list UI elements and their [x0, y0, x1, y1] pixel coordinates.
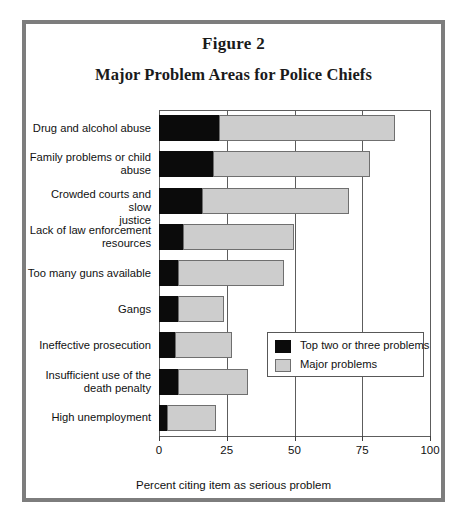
- category-label: Ineffective prosecution: [26, 339, 151, 352]
- bar-segment-top-two-or-three: [159, 115, 219, 141]
- bar-segment-top-two-or-three: [159, 405, 167, 431]
- bar-segment-top-two-or-three: [159, 188, 202, 214]
- x-tick-label-25: 25: [207, 444, 247, 456]
- category-label: Drug and alcohol abuse: [26, 122, 151, 135]
- bar-segment-top-two-or-three: [159, 260, 178, 286]
- bar-segment-major-problems: [219, 115, 395, 141]
- bar-segment-major-problems: [202, 188, 348, 214]
- x-tick-label-75: 75: [342, 444, 382, 456]
- category-label: Gangs: [26, 303, 151, 316]
- figure-frame: Figure 2 Major Problem Areas for Police …: [22, 20, 445, 502]
- category-label: High unemployment: [26, 411, 151, 424]
- bar-segment-major-problems: [178, 369, 248, 395]
- bar-segment-major-problems: [178, 260, 284, 286]
- legend-label-major-problems: Major problems: [300, 358, 377, 370]
- category-label: Lack of law enforcement resources: [26, 224, 151, 250]
- bar-segment-major-problems: [167, 405, 216, 431]
- category-label: Family problems or child abuse: [26, 151, 151, 177]
- legend-swatch-major-problems: [275, 359, 291, 372]
- bar-segment-top-two-or-three: [159, 224, 183, 250]
- bar-chart: 0255075100Drug and alcohol abuseFamily p…: [26, 24, 441, 498]
- legend-label-top-two-or-three: Top two or three problems: [300, 339, 429, 351]
- x-tick-25: [227, 436, 228, 441]
- x-tick-label-0: 0: [139, 444, 179, 456]
- category-label: Insufficient use of the death penalty: [26, 369, 151, 395]
- category-label: Crowded courts and slow justice: [26, 188, 151, 227]
- gridline-100: [430, 110, 431, 436]
- bar-segment-major-problems: [175, 332, 232, 358]
- category-label: Too many guns available: [26, 267, 151, 280]
- x-tick-50: [295, 436, 296, 441]
- bar-segment-top-two-or-three: [159, 332, 175, 358]
- legend-swatch-top-two-or-three: [275, 340, 291, 353]
- x-tick-75: [362, 436, 363, 441]
- x-tick-label-50: 50: [275, 444, 315, 456]
- x-tick-0: [159, 436, 160, 441]
- bar-segment-major-problems: [213, 151, 370, 177]
- chart-legend: Top two or three problems Major problems: [267, 332, 424, 377]
- bar-segment-top-two-or-three: [159, 296, 178, 322]
- bar-segment-top-two-or-three: [159, 369, 178, 395]
- x-tick-100: [430, 436, 431, 441]
- x-axis-title: Percent citing item as serious problem: [26, 479, 441, 491]
- bar-segment-major-problems: [178, 296, 224, 322]
- x-tick-label-100: 100: [410, 444, 450, 456]
- bar-segment-major-problems: [183, 224, 294, 250]
- bar-segment-top-two-or-three: [159, 151, 213, 177]
